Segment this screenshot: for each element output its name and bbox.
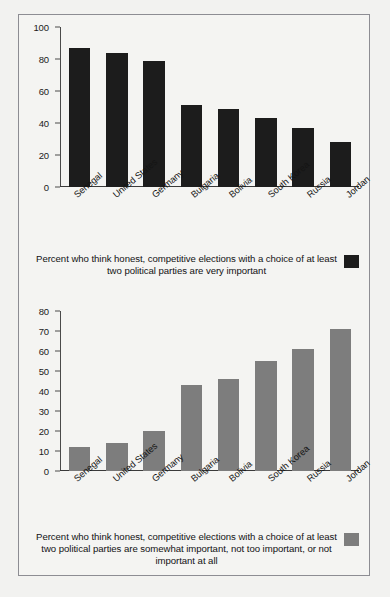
legend-swatch-very-important [344,255,359,268]
bar-bolivia [218,379,240,471]
bar-column [61,311,98,471]
bar-senegal [69,48,91,187]
legend-very-important: Percent who think honest, competitive el… [33,253,359,277]
y-tick-mark [55,155,60,156]
y-tick-label: 70 [39,326,49,337]
legend-label-very-important: Percent who think honest, competitive el… [33,253,344,277]
x-label-slot: Russia [288,190,327,250]
y-tick-mark [55,351,60,352]
x-label-slot: United States [94,190,133,250]
x-label-slot: Bolivia [210,190,249,250]
y-tick-mark [55,187,60,188]
bar-united-states [106,53,128,187]
x-label-slot: Jordan [326,474,365,534]
x-label-slot: United States [94,474,133,534]
y-tick-mark [55,123,60,124]
y-tick-mark [55,311,60,312]
y-tick-mark [55,471,60,472]
chart-panel-somewhat-important: 01020304050607080 SenegalUnited StatesGe… [19,297,369,577]
x-label-slot: Bulgaria [171,474,210,534]
y-axis-ticks-bottom: 01020304050607080 [25,311,55,471]
figure-frame: 020406080100 SenegalUnited StatesGermany… [18,14,370,576]
y-tick-label: 0 [44,466,49,477]
y-tick-mark [55,431,60,432]
y-tick-label: 50 [39,366,49,377]
bar-group-top [61,27,359,187]
bar-chart-very-important: 020406080100 [25,27,363,187]
bar-chart-somewhat-important: 01020304050607080 [25,311,363,471]
legend-swatch-somewhat-important [344,533,359,546]
bar-column [98,311,135,471]
legend-label-somewhat-important: Percent who think honest, competitive el… [33,531,344,568]
y-tick-mark [55,59,60,60]
y-tick-label: 80 [39,306,49,317]
bar-jordan [330,329,352,471]
bar-column [61,27,98,187]
y-tick-label: 0 [44,182,49,193]
y-tick-label: 40 [39,118,49,129]
x-label-slot: Russia [288,474,327,534]
bar-bolivia [218,109,240,187]
y-tick-label: 10 [39,446,49,457]
y-tick-mark [55,411,60,412]
y-tick-mark [55,331,60,332]
x-label-slot: Bolivia [210,474,249,534]
bar-column [210,311,247,471]
bar-jordan [330,142,352,187]
bar-column [247,311,284,471]
bar-south-korea [255,118,277,187]
x-label-slot: South Korea [249,474,288,534]
bar-column [173,311,210,471]
y-tick-mark [55,451,60,452]
y-tick-label: 80 [39,54,49,65]
y-tick-mark [55,27,60,28]
y-tick-label: 20 [39,150,49,161]
y-tick-mark [55,371,60,372]
bar-column [173,27,210,187]
bar-column [98,27,135,187]
y-tick-mark [55,91,60,92]
x-label-slot: Germany [133,190,172,250]
plot-area-top: 020406080100 [25,27,363,187]
x-label-slot: Bulgaria [171,190,210,250]
x-axis-labels-top: SenegalUnited StatesGermanyBulgariaBoliv… [55,190,365,250]
y-tick-label: 100 [33,22,49,33]
y-tick-label: 20 [39,426,49,437]
bar-column [322,311,359,471]
y-tick-label: 30 [39,406,49,417]
y-tick-label: 60 [39,346,49,357]
x-label-slot: South Korea [249,190,288,250]
y-tick-label: 60 [39,86,49,97]
bar-column [247,27,284,187]
x-label-slot: Senegal [55,190,94,250]
chart-panel-very-important: 020406080100 SenegalUnited StatesGermany… [19,15,369,297]
plot-area-bottom: 01020304050607080 [25,311,363,471]
x-label-slot: Germany [133,474,172,534]
x-axis-labels-bottom: SenegalUnited StatesGermanyBulgariaBoliv… [55,474,365,534]
x-label-slot: Jordan [326,190,365,250]
x-label-slot: Senegal [55,474,94,534]
bar-south-korea [255,361,277,471]
bar-column [322,27,359,187]
y-axis-ticks-top: 020406080100 [25,27,55,187]
legend-somewhat-important: Percent who think honest, competitive el… [33,531,359,568]
bar-group-bottom [61,311,359,471]
y-tick-mark [55,391,60,392]
y-tick-label: 40 [39,386,49,397]
bar-column [210,27,247,187]
